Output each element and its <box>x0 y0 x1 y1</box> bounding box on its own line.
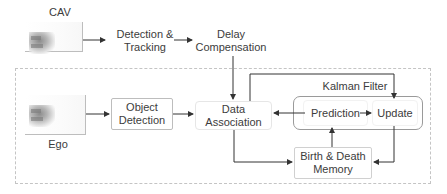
connector-arrows <box>0 0 447 194</box>
